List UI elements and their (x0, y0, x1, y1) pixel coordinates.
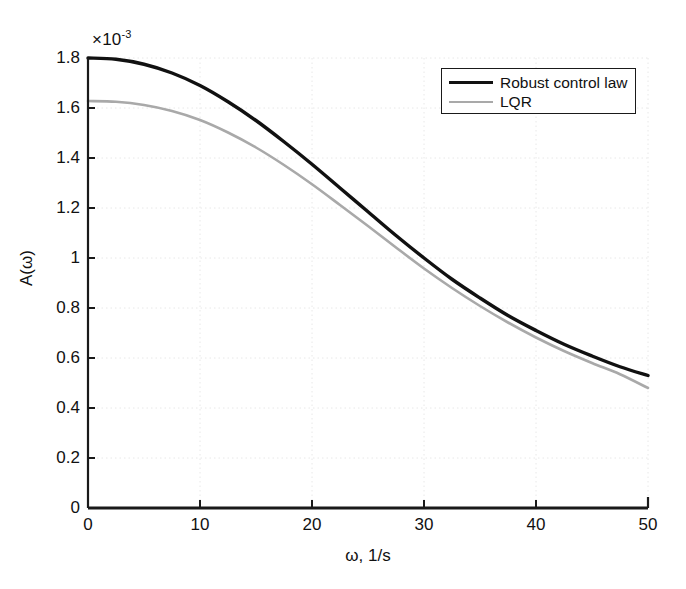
legend-item-lqr: LQR (442, 92, 635, 111)
y-tick-label: 0.6 (18, 348, 80, 368)
x-axis-title: ω, 1/s (88, 546, 648, 566)
legend-item-robust: Robust control law (442, 73, 635, 92)
figure-panel: ×10-3 00.20.40.60.811.21.41.61.8 ω, 1/s … (0, 0, 686, 589)
x-tick-label: 10 (191, 515, 210, 535)
y-tick-label: 1.8 (18, 48, 80, 68)
legend-label-lqr: LQR (500, 94, 532, 110)
x-tick-label: 30 (415, 515, 434, 535)
y-axis-title: A(ω) (17, 228, 37, 308)
y-tick-label: 0 (18, 498, 80, 518)
y-axis-multiplier-exponent: -3 (121, 28, 131, 40)
x-tick-label: 0 (83, 515, 92, 535)
axis-lines (88, 58, 648, 508)
x-tick-label: 40 (527, 515, 546, 535)
legend: Robust control law LQR (441, 68, 636, 114)
gridlines (88, 58, 648, 508)
legend-label-robust: Robust control law (500, 75, 628, 91)
y-tick-label: 1.6 (18, 98, 80, 118)
y-axis-multiplier-label: ×10-3 (92, 28, 132, 50)
legend-swatch-lqr-icon (449, 101, 493, 103)
x-tick-label: 20 (303, 515, 322, 535)
legend-swatch-robust-icon (449, 81, 493, 84)
x-tick-label: 50 (639, 515, 658, 535)
y-axis-multiplier-base: ×10 (92, 30, 121, 49)
y-tick-label: 0.2 (18, 448, 80, 468)
y-tick-label: 1.4 (18, 148, 80, 168)
y-tick-label: 0.4 (18, 398, 80, 418)
y-tick-label: 1.2 (18, 198, 80, 218)
